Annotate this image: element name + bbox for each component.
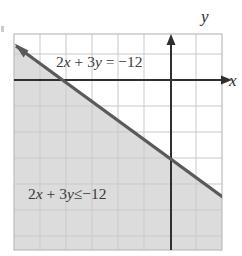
boundary-equation-label: 2x + 3y = −12 xyxy=(56,54,143,70)
equation-coef-y: 3 xyxy=(87,53,95,70)
graph-canvas xyxy=(0,0,242,256)
scan-artifact xyxy=(1,26,4,32)
equation-var-x: x xyxy=(64,53,71,70)
inequality-plus: + xyxy=(47,185,56,202)
y-axis-label: y xyxy=(201,8,209,25)
x-axis-label: x xyxy=(229,72,237,89)
inequality-var-y: y xyxy=(67,185,74,202)
inequality-label: 2x + 3y≤−12 xyxy=(28,186,107,202)
equation-constant: −12 xyxy=(118,53,142,70)
equation-coef-x: 2 xyxy=(56,53,64,70)
inequality-coef-x: 2 xyxy=(28,185,36,202)
inequality-graph-figure: y x 2x + 3y = −12 2x + 3y≤−12 xyxy=(0,0,242,256)
equation-plus: + xyxy=(75,53,84,70)
equation-var-y: y xyxy=(95,53,102,70)
equation-relation: = xyxy=(106,53,115,70)
inequality-constant: −12 xyxy=(82,185,106,202)
inequality-var-x: x xyxy=(36,185,43,202)
inequality-coef-y: 3 xyxy=(59,185,67,202)
